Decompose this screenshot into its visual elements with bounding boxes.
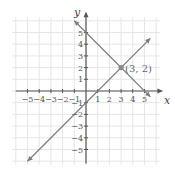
- y-tick-label: 2: [78, 64, 83, 73]
- y-axis-label: y: [73, 6, 81, 19]
- intersection-label: (3, 2): [125, 63, 152, 74]
- x-tick-label: 1: [95, 95, 100, 104]
- x-tick-label: −2: [57, 95, 69, 104]
- x-tick-label: 4: [130, 95, 135, 104]
- x-axis-label: x: [164, 94, 171, 107]
- x-tick-label: −3: [45, 95, 57, 104]
- x-tick-label: 3: [119, 95, 124, 104]
- y-tick-label: 3: [78, 52, 83, 61]
- y-tick-label: 1: [78, 75, 83, 84]
- y-tick-label: −1: [71, 99, 83, 108]
- x-tick-label: 5: [142, 95, 147, 104]
- y-tick-label: 5: [78, 29, 83, 38]
- intersection-point: [119, 65, 124, 70]
- x-tick-label: 2: [107, 95, 112, 104]
- y-tick-label: 4: [78, 40, 83, 49]
- x-tick-label: −5: [22, 95, 34, 104]
- y-tick-label: −5: [71, 146, 83, 155]
- y-tick-label: −2: [71, 110, 83, 119]
- coordinate-plane: −5−4−3−2−11234554321−1−2−3−4−5 x y (3, 2…: [0, 0, 175, 171]
- x-tick-label: −4: [33, 95, 45, 104]
- y-tick-label: −3: [71, 122, 83, 131]
- y-tick-label: −4: [71, 134, 83, 143]
